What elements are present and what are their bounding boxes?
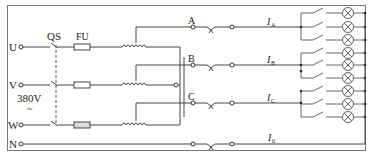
switch-a1 — [313, 8, 323, 13]
input-label-w: W — [8, 119, 19, 131]
output-label-c: C — [188, 91, 195, 102]
svg-text:0: 0 — [272, 138, 275, 144]
lamp-branch-a1 — [301, 8, 366, 19]
current-label-i0: I 0 — [267, 132, 275, 144]
terminal-n — [19, 142, 23, 146]
phase-u-line — [23, 43, 122, 50]
switch-c3 — [313, 112, 323, 117]
terminal-v — [19, 83, 23, 87]
switch-a3 — [313, 35, 323, 40]
coil-u — [122, 27, 191, 47]
fuse-link-a — [207, 27, 215, 33]
lamp-bank-c — [300, 86, 367, 123]
phase-v-line — [23, 81, 122, 88]
svg-text:B: B — [271, 60, 275, 66]
knife-switch-v — [51, 81, 58, 86]
switch-label-qs: QS — [47, 30, 61, 42]
lamp-branch-c2 — [301, 99, 366, 110]
lamp-branch-a3 — [301, 35, 366, 46]
lamp-branch-b1 — [301, 48, 366, 59]
switch-b3 — [313, 73, 323, 78]
switch-b1 — [313, 48, 323, 53]
star-point-terminal — [174, 83, 178, 87]
circuit-diagram: U V W N 380V ~ QS FU — [0, 0, 371, 161]
lamp-branch-b3 — [301, 73, 366, 84]
svg-text:A: A — [271, 22, 276, 28]
fuse-label-fu: FU — [76, 31, 90, 42]
terminal-u — [19, 45, 23, 49]
lamp-bank-a — [300, 8, 367, 46]
switch-c1 — [313, 86, 323, 91]
fuse-link-c — [207, 103, 215, 109]
fuse-w — [74, 122, 90, 128]
fuse-link-b — [207, 65, 215, 71]
switch-a2 — [313, 22, 323, 27]
terminal-w — [19, 123, 23, 127]
phase-w-line — [23, 121, 122, 128]
input-label-n: N — [9, 138, 17, 150]
input-label-u: U — [9, 41, 17, 53]
fuse-u — [74, 44, 90, 50]
fuse-v — [74, 82, 90, 88]
current-label-ic: I C — [266, 92, 275, 104]
lamp-branch-b2 — [301, 60, 366, 71]
lamp-branch-c1 — [301, 86, 366, 97]
coil-w — [122, 103, 191, 125]
ac-symbol: ~ — [27, 103, 33, 114]
fuse-link-n — [207, 144, 215, 150]
knife-switch-u — [51, 43, 58, 48]
current-label-ib: I B — [266, 54, 275, 66]
current-label-ia: I A — [266, 16, 276, 28]
knife-switch-w — [51, 121, 58, 126]
switch-b2 — [313, 60, 323, 65]
switch-c2 — [313, 99, 323, 104]
output-line-n — [23, 142, 365, 150]
lamp-branch-a2 — [301, 22, 366, 33]
coil-v — [122, 65, 191, 85]
svg-text:C: C — [271, 98, 275, 104]
input-label-v: V — [9, 79, 17, 91]
output-line-a — [191, 25, 301, 33]
output-line-b — [191, 63, 301, 71]
output-label-b: B — [188, 53, 195, 64]
lamp-branch-c3 — [301, 112, 366, 123]
output-label-a: A — [188, 15, 196, 26]
output-line-c — [191, 101, 301, 109]
lamp-bank-b — [300, 48, 367, 84]
